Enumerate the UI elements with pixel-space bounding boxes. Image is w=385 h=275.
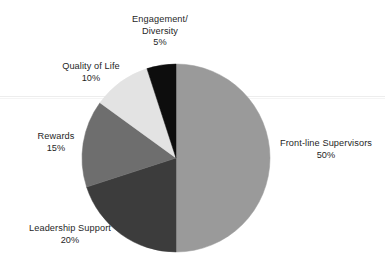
slice-label-quality-of-life: Quality of Life 10%	[32, 61, 150, 84]
slice-label-front-line-supervisors-line1: Front-line Supervisors	[268, 138, 384, 150]
slice-label-quality-of-life-line1: Quality of Life	[32, 61, 150, 73]
slice-value-front-line-supervisors: 50%	[268, 150, 384, 162]
slice-value-rewards: 15%	[8, 143, 104, 155]
slice-value-engagement-diversity: 5%	[101, 37, 219, 49]
slice-value-quality-of-life: 10%	[32, 73, 150, 85]
pie-chart-figure: Engagement/ Diversity 5% Quality of Life…	[0, 0, 385, 275]
pie-slice-front-line-supervisors[interactable]	[176, 64, 270, 252]
slice-label-engagement-diversity: Engagement/ Diversity 5%	[101, 14, 219, 49]
slice-label-leadership-support: Leadership Support 20%	[4, 223, 136, 246]
slice-value-leadership-support: 20%	[4, 235, 136, 247]
slice-label-rewards-line1: Rewards	[8, 131, 104, 143]
slice-label-leadership-support-line1: Leadership Support	[4, 223, 136, 235]
slice-label-engagement-diversity-line2: Diversity	[101, 26, 219, 38]
slice-label-front-line-supervisors: Front-line Supervisors 50%	[268, 138, 384, 161]
slice-label-engagement-diversity-line1: Engagement/	[101, 14, 219, 26]
slice-label-rewards: Rewards 15%	[8, 131, 104, 154]
